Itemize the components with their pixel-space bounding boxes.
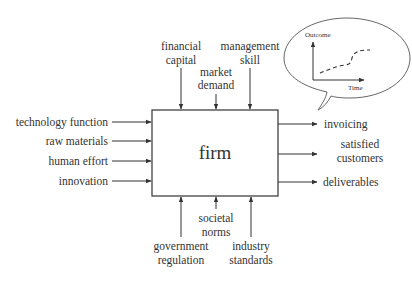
top-inputs: financial capital market demand manageme…	[161, 40, 280, 109]
input-label-line2: standards	[229, 254, 273, 266]
input-label-line2: demand	[198, 79, 235, 91]
output-satisfied-customers: satisfied customers	[278, 138, 384, 164]
output-label-line2: customers	[337, 152, 384, 164]
x-axis-label: Time	[348, 84, 363, 92]
output-deliverables: deliverables	[278, 176, 379, 188]
input-raw-materials: raw materials	[46, 135, 151, 147]
thought-bubble: Outcome Time	[284, 18, 410, 110]
input-market-demand: market demand	[198, 66, 235, 109]
input-label-line2: norms	[202, 226, 231, 238]
input-label-line1: government	[154, 240, 210, 253]
y-axis-label: Outcome	[305, 31, 331, 39]
input-label-line2: skill	[240, 54, 260, 66]
input-label: raw materials	[46, 135, 109, 147]
input-label-line2: regulation	[158, 254, 205, 267]
input-label-line1: management	[221, 40, 281, 53]
input-societal-norms: societal norms	[198, 197, 233, 238]
speech-bubble-icon	[284, 18, 410, 110]
firm-diagram: firm technology function raw materials h…	[0, 0, 412, 281]
input-financial-capital: financial capital	[161, 40, 201, 109]
input-innovation: innovation	[59, 175, 151, 187]
output-label: deliverables	[323, 176, 379, 188]
input-human-effort: human effort	[48, 155, 151, 167]
input-label: human effort	[48, 155, 108, 167]
right-outputs: invoicing satisfied customers deliverabl…	[278, 118, 384, 188]
bottom-inputs: government regulation societal norms ind…	[154, 197, 274, 267]
input-label-line1: market	[200, 66, 233, 78]
input-technology-function: technology function	[16, 116, 151, 129]
left-inputs: technology function raw materials human …	[16, 116, 151, 187]
input-label-line1: societal	[198, 212, 233, 224]
input-label: technology function	[16, 116, 109, 129]
output-label-line1: satisfied	[341, 138, 380, 150]
input-label: innovation	[59, 175, 108, 187]
input-industry-standards: industry standards	[229, 197, 273, 266]
output-invoicing: invoicing	[278, 118, 368, 131]
input-label-line1: industry	[232, 240, 270, 253]
input-label-line1: financial	[161, 40, 201, 52]
firm-label: firm	[199, 142, 232, 163]
input-label-line2: capital	[166, 54, 197, 67]
firm-box: firm	[152, 110, 278, 196]
output-label: invoicing	[324, 118, 368, 131]
